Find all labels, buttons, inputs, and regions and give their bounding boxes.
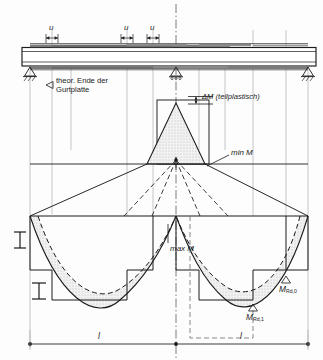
top-cover-plates	[30, 44, 308, 48]
u-label-3: u	[150, 24, 154, 32]
u-dimension-marks	[46, 34, 159, 43]
span-label-right: l	[240, 332, 242, 341]
m-rd-0-sub: Rd,0	[286, 288, 297, 294]
m-rd-1-sub: Rd,1	[253, 316, 264, 322]
u-label-1: u	[49, 24, 53, 32]
span-label-left: l	[98, 332, 100, 341]
m-rd-1-main: M	[246, 312, 253, 322]
hogging-moment-region	[30, 97, 308, 217]
m-rd-1-label: MRd,1	[246, 313, 264, 322]
diagram-canvas	[0, 0, 323, 360]
i-section-upper	[14, 232, 26, 248]
i-section-lower	[32, 283, 46, 299]
m-rd-0-label: MRd,0	[279, 285, 297, 294]
theor-end-label-line2: Gurtplatte	[56, 86, 89, 94]
engineering-diagram: u u u theor. Ende der Gurtplatte ΔM (tei…	[0, 0, 323, 360]
min-m-label: min M	[231, 149, 253, 157]
theor-end-label-line1: theor. Ende der	[56, 77, 108, 85]
bottom-cover-plates	[30, 66, 308, 70]
beam-elevation	[22, 44, 316, 70]
delta-m-label: ΔM (teilplastisch)	[202, 93, 260, 101]
m-rd-0-main: M	[279, 284, 286, 294]
max-m-label: max M	[170, 245, 194, 253]
u-label-2: u	[124, 24, 128, 32]
span-dimension-line	[28, 330, 310, 350]
